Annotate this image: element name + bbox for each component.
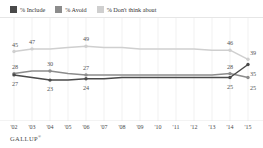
data-point-label: 49 xyxy=(83,35,89,42)
data-point-label: 46 xyxy=(227,39,233,46)
data-point-marker xyxy=(228,49,231,52)
data-point-marker xyxy=(48,69,51,72)
series-line xyxy=(14,46,248,59)
x-axis: '02'03'04'05'06'07'08'09'10'11'12'13'14'… xyxy=(0,121,263,133)
chart-legend: % Include% Avoid% Don't think about xyxy=(10,3,156,15)
x-axis-tick-label: '04 xyxy=(46,121,53,133)
legend-item: % Include xyxy=(10,6,45,13)
plot-area: 454749463928302728252723242535 xyxy=(0,18,263,121)
legend-swatch-dont-think-about xyxy=(97,6,104,13)
legend-swatch-include xyxy=(10,6,17,13)
data-point-label: 24 xyxy=(83,83,89,90)
data-point-marker xyxy=(246,76,249,79)
data-point-marker xyxy=(84,45,87,48)
x-axis-tick-label: '10 xyxy=(154,121,161,133)
data-point-label: 47 xyxy=(29,37,35,44)
source-attribution: GALLUP® xyxy=(10,134,42,142)
data-point-label: 45 xyxy=(12,40,18,47)
data-point-label: 25 xyxy=(250,83,256,90)
data-point-marker xyxy=(30,47,33,50)
data-point-marker xyxy=(246,63,249,66)
x-axis-tick-label: '06 xyxy=(82,121,89,133)
x-axis-tick-label: '13 xyxy=(208,121,215,133)
plot-svg xyxy=(0,18,263,121)
data-point-label: 27 xyxy=(83,63,89,70)
data-point-marker xyxy=(12,73,15,76)
data-point-marker xyxy=(228,76,231,79)
x-axis-tick-label: '12 xyxy=(190,121,197,133)
source-name: GALLUP xyxy=(10,135,38,142)
legend-item-label: % Include xyxy=(20,6,45,13)
legend-swatch-avoid xyxy=(55,6,62,13)
data-point-label: 23 xyxy=(47,85,53,92)
data-point-label: 28 xyxy=(12,62,18,69)
data-point-label: 35 xyxy=(250,69,256,76)
legend-item: % Avoid xyxy=(55,6,86,13)
data-point-label: 28 xyxy=(227,62,233,69)
data-point-label: 25 xyxy=(227,82,233,89)
source-registered-mark: ® xyxy=(38,134,41,139)
x-axis-tick-label: '15 xyxy=(244,121,251,133)
x-axis-tick-label: '02 xyxy=(10,121,17,133)
x-axis-tick-label: '03 xyxy=(28,121,35,133)
x-axis-tick-label: '14 xyxy=(226,121,233,133)
x-axis-tick-label: '05 xyxy=(64,121,71,133)
legend-item: % Don't think about xyxy=(97,6,157,13)
data-point-marker xyxy=(228,72,231,75)
legend-item-label: % Avoid xyxy=(65,6,86,13)
data-point-marker xyxy=(48,78,51,81)
data-point-marker xyxy=(84,73,87,76)
x-axis-tick-label: '08 xyxy=(118,121,125,133)
data-point-marker xyxy=(84,77,87,80)
x-axis-tick-label: '09 xyxy=(136,121,143,133)
x-axis-tick-label: '11 xyxy=(173,121,180,133)
gallup-line-chart: % Include% Avoid% Don't think about 4547… xyxy=(0,0,263,148)
data-point-label: 27 xyxy=(12,79,18,86)
x-axis-tick-label: '07 xyxy=(100,121,107,133)
data-point-marker xyxy=(12,50,15,53)
data-point-label: 39 xyxy=(250,49,256,56)
data-point-marker xyxy=(246,58,249,61)
legend-item-label: % Don't think about xyxy=(107,6,157,13)
data-point-label: 30 xyxy=(47,60,53,67)
